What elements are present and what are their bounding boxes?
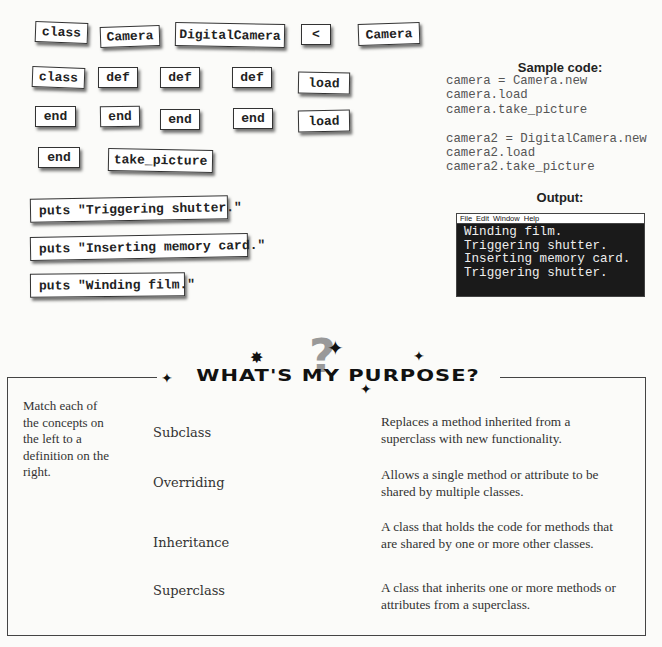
- magnet-load-2[interactable]: load: [298, 110, 350, 133]
- terminal-output: Winding film. Triggering shutter. Insert…: [457, 224, 644, 280]
- magnet-load-1[interactable]: load: [298, 72, 350, 95]
- menu-file[interactable]: File: [460, 214, 472, 223]
- magnet-end-2[interactable]: end: [100, 106, 140, 128]
- sparkle-icon: ✦: [327, 338, 344, 358]
- magnet-end-3[interactable]: end: [160, 109, 200, 130]
- magnet-puts-triggering[interactable]: puts "Triggering shutter.": [30, 195, 228, 222]
- magnet-camera-2[interactable]: Camera: [358, 22, 421, 46]
- menu-help[interactable]: Help: [524, 214, 539, 223]
- instructions-text: Match each of the concepts on the left t…: [23, 398, 113, 481]
- sparkle-icon: ✦: [413, 350, 425, 364]
- sample-code-block: camera = Camera.new camera.load camera.t…: [446, 74, 647, 175]
- magnet-less-than[interactable]: <: [301, 24, 331, 45]
- sparkle-icon: ✦: [161, 372, 173, 386]
- definition-1[interactable]: Replaces a method inherited from a super…: [381, 414, 621, 447]
- sample-code-title: Sample code:: [470, 60, 650, 75]
- magnet-end-4[interactable]: end: [233, 108, 273, 129]
- definition-2[interactable]: Allows a single method or attribute to b…: [381, 467, 621, 500]
- menu-window[interactable]: Window: [493, 214, 520, 223]
- purpose-heading: WHAT'S MY PURPOSE?: [178, 367, 498, 386]
- output-title: Output:: [470, 190, 650, 205]
- terminal-window: File Edit Window Help Winding film. Trig…: [456, 213, 645, 297]
- concept-inheritance[interactable]: Inheritance: [153, 535, 229, 550]
- menu-edit[interactable]: Edit: [476, 214, 489, 223]
- magnet-def-3[interactable]: def: [232, 67, 272, 88]
- magnet-digitalcamera[interactable]: DigitalCamera: [175, 22, 285, 48]
- concept-overriding[interactable]: Overriding: [153, 475, 224, 490]
- magnet-puts-winding[interactable]: puts "Winding film.": [30, 272, 185, 297]
- concept-superclass[interactable]: Superclass: [153, 583, 225, 598]
- magnet-def-1[interactable]: def: [98, 67, 138, 88]
- magnet-take-picture[interactable]: take_picture: [108, 148, 213, 173]
- magnet-camera-1[interactable]: Camera: [100, 25, 161, 48]
- box-top-border-left: [7, 377, 157, 378]
- magnet-class-2[interactable]: class: [32, 66, 86, 89]
- terminal-menu-bar: File Edit Window Help: [457, 214, 644, 224]
- box-top-border-right: [500, 377, 646, 378]
- definition-3[interactable]: A class that holds the code for methods …: [381, 519, 621, 552]
- definition-4[interactable]: A class that inherits one or more method…: [381, 580, 621, 613]
- magnet-end-5[interactable]: end: [38, 147, 80, 168]
- magnet-puts-inserting[interactable]: puts "Inserting memory card.": [30, 233, 248, 261]
- sparkle-icon: ✸: [250, 350, 263, 366]
- magnet-end-1[interactable]: end: [35, 106, 76, 127]
- magnet-def-2[interactable]: def: [160, 67, 200, 88]
- magnet-class-1[interactable]: class: [35, 21, 89, 44]
- concept-subclass[interactable]: Subclass: [153, 425, 211, 440]
